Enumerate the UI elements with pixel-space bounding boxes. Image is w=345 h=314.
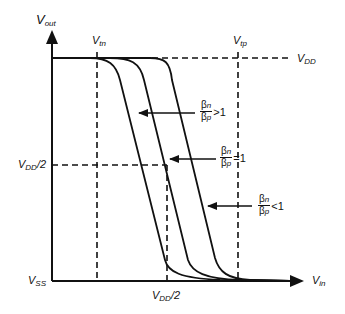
vss-label: VSS: [28, 274, 46, 288]
vdd-half-y-label: VDD/2: [18, 158, 46, 172]
ratio-label-gt-1: βnβp >1: [200, 100, 226, 123]
vtc-plot: [0, 0, 345, 314]
y-axis-label: Vout: [36, 12, 56, 28]
ratio-label-eq-1: βnβp =1: [220, 146, 246, 169]
y-axis-arrow-icon: [46, 30, 58, 44]
vtp-label: Vtp: [233, 34, 247, 48]
vtn-label: Vtn: [92, 34, 106, 48]
curve-beta-eq-1: [52, 58, 290, 281]
vdd-half-x-label: VDD/2: [152, 289, 180, 303]
x-axis-arrow-icon: [290, 275, 304, 287]
ratio-label-lt-1: βnβp <1: [258, 194, 284, 217]
curve-beta-lt-1: [52, 58, 290, 281]
vdd-label: VDD: [297, 52, 316, 66]
curve-beta-gt-1: [52, 58, 290, 281]
x-axis-label: Vin: [312, 274, 326, 288]
